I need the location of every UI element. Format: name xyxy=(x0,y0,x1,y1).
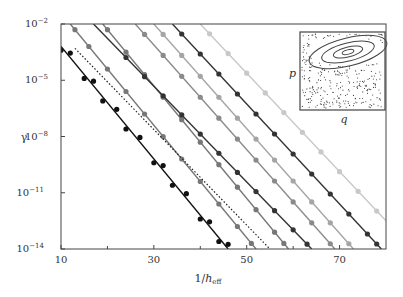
data-point xyxy=(235,224,240,229)
x-tick-label: 50 xyxy=(240,254,253,265)
data-point xyxy=(179,53,184,58)
x-tick-label: 30 xyxy=(147,254,160,265)
data-point xyxy=(253,207,258,212)
data-point xyxy=(207,31,212,36)
data-point xyxy=(100,98,105,103)
data-point xyxy=(235,185,240,190)
chart: 1030507010−210−510−810−1110−14 pq 1/heff… xyxy=(0,0,403,297)
data-point xyxy=(198,132,203,137)
data-point xyxy=(105,27,110,32)
data-point xyxy=(151,160,156,165)
data-point xyxy=(161,53,166,58)
data-point xyxy=(281,110,286,115)
data-point xyxy=(91,79,96,84)
data-point xyxy=(216,95,221,100)
data-point xyxy=(142,74,147,79)
data-point xyxy=(328,191,333,196)
data-point xyxy=(291,227,296,232)
data-point xyxy=(281,241,286,246)
data-point xyxy=(114,107,119,112)
data-point xyxy=(198,74,203,79)
data-point xyxy=(253,189,258,194)
data-point xyxy=(374,241,379,246)
y-axis-title: γ xyxy=(21,131,28,144)
data-point xyxy=(337,169,342,174)
y-tick-label: 10−8 xyxy=(25,130,48,142)
data-point xyxy=(179,31,184,36)
y-tick-label: 10−14 xyxy=(16,242,44,254)
data-point xyxy=(68,50,73,55)
data-point xyxy=(86,44,91,49)
inset-phase-portrait: pq xyxy=(289,29,390,126)
data-point xyxy=(328,220,333,225)
inset-x-label: q xyxy=(341,113,348,126)
data-point xyxy=(179,112,184,117)
data-point xyxy=(161,93,166,98)
data-point xyxy=(309,199,314,204)
data-point xyxy=(356,189,361,194)
data-point xyxy=(272,157,277,162)
data-point xyxy=(309,171,314,176)
inset-y-label: p xyxy=(289,67,296,80)
data-point xyxy=(291,199,296,204)
data-point xyxy=(291,178,296,183)
data-point xyxy=(272,131,277,136)
data-point xyxy=(123,126,128,131)
data-point xyxy=(216,116,221,121)
data-point xyxy=(346,241,351,246)
data-point xyxy=(253,157,258,162)
data-point xyxy=(105,66,110,71)
data-point xyxy=(365,231,370,236)
data-point xyxy=(216,239,221,244)
data-point xyxy=(318,149,323,154)
data-point xyxy=(142,32,147,37)
data-point xyxy=(123,89,128,94)
y-tick-label: 10−2 xyxy=(25,17,48,29)
y-tick-label: 10−5 xyxy=(25,73,48,85)
x-axis-title: 1/heff xyxy=(195,272,223,286)
data-point xyxy=(249,241,254,246)
series-3 xyxy=(103,24,289,249)
data-point xyxy=(198,95,203,100)
y-tick-label: 10−11 xyxy=(16,186,44,198)
data-point xyxy=(291,151,296,156)
data-point xyxy=(235,137,240,142)
series-line xyxy=(103,24,289,249)
data-point xyxy=(235,116,240,121)
data-point xyxy=(216,71,221,76)
data-point xyxy=(179,74,184,79)
x-tick-label: 10 xyxy=(55,254,68,265)
data-point xyxy=(272,208,277,213)
data-point xyxy=(235,91,240,96)
data-point xyxy=(346,211,351,216)
data-point xyxy=(253,111,258,116)
data-point xyxy=(170,183,175,188)
data-point xyxy=(207,219,212,224)
data-point xyxy=(142,111,147,116)
data-point xyxy=(123,55,128,60)
x-tick-label: 70 xyxy=(333,254,346,265)
data-point xyxy=(198,51,203,56)
data-point xyxy=(244,71,249,76)
data-point xyxy=(198,216,203,221)
data-point xyxy=(216,201,221,206)
data-point xyxy=(137,135,142,140)
data-point xyxy=(374,208,379,213)
data-point xyxy=(235,170,240,175)
data-point xyxy=(161,163,166,168)
data-point xyxy=(161,32,166,37)
data-point xyxy=(82,76,87,81)
data-point xyxy=(216,151,221,156)
data-point xyxy=(216,162,221,167)
data-point xyxy=(253,137,258,142)
data-point xyxy=(226,51,231,56)
data-point xyxy=(272,178,277,183)
data-point xyxy=(226,242,231,247)
data-point xyxy=(72,27,77,32)
series-4 xyxy=(94,24,312,249)
data-point xyxy=(328,241,333,246)
data-point xyxy=(263,90,268,95)
data-point xyxy=(123,50,128,55)
data-point xyxy=(272,230,277,235)
data-point xyxy=(300,130,305,135)
